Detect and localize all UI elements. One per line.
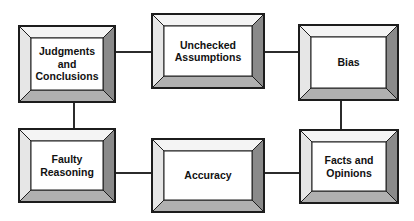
beveled-box-shape <box>299 129 399 204</box>
beveled-box-shape <box>151 13 265 89</box>
node-unchecked-assumptions[interactable]: Unchecked Assumptions <box>151 13 265 89</box>
node-judgments-and-conclusions[interactable]: Judgments and Conclusions <box>18 25 116 103</box>
beveled-box-shape <box>18 25 116 103</box>
connector-accuracy-faulty <box>115 172 151 174</box>
node-faulty-reasoning[interactable]: Faulty Reasoning <box>18 128 116 203</box>
node-bias[interactable]: Bias <box>298 24 399 101</box>
node-facts-and-opinions[interactable]: Facts and Opinions <box>299 129 399 204</box>
beveled-box-shape <box>18 128 116 203</box>
beveled-box-shape <box>151 138 265 213</box>
connector-faulty-judgments <box>73 101 75 129</box>
node-accuracy[interactable]: Accuracy <box>151 138 265 213</box>
beveled-box-shape <box>298 24 399 101</box>
connector-unchecked-bias <box>265 51 298 53</box>
diagram-canvas: Judgments and Conclusions Unchecked Assu… <box>0 0 414 221</box>
connector-facts-accuracy <box>265 172 299 174</box>
connector-bias-facts <box>340 100 342 129</box>
connector-judgments-unchecked <box>115 51 151 53</box>
